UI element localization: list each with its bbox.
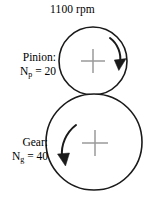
gear-train-diagram: 1100 rpm Pinion: Np = 20 Ge [0, 0, 145, 199]
pinion-teeth-equals: = [32, 65, 44, 77]
diagram-canvas [0, 0, 145, 199]
gear-annotation: Gear: Ng = 40 [0, 135, 50, 167]
gear-circle [46, 94, 142, 190]
pinion-teeth-count: 20 [45, 65, 57, 77]
pinion-name-label: Pinion: [0, 50, 56, 64]
gear-teeth-count: 40 [37, 150, 49, 162]
pinion-teeth-symbol: N [20, 65, 28, 77]
gear-teeth-equals: = [24, 150, 36, 162]
gear-teeth-label: Ng = 40 [0, 149, 48, 167]
gear-name-label: Gear: [0, 135, 48, 149]
pinion-annotation: Pinion: Np = 20 [0, 50, 58, 82]
pinion-teeth-label: Np = 20 [0, 64, 56, 82]
gear-teeth-symbol: N [12, 150, 20, 162]
